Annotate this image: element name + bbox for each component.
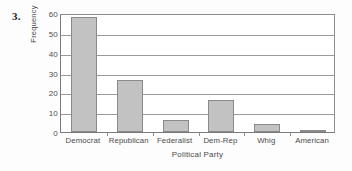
x-tick-label: Democrat — [60, 136, 106, 145]
x-tick-label: Whig — [243, 136, 289, 145]
x-axis-title: Political Party — [60, 150, 335, 159]
bar — [208, 100, 234, 132]
bar-slot — [153, 15, 199, 132]
bar-slot — [290, 15, 336, 132]
bar-slot — [61, 15, 107, 132]
x-tick-label: Federalist — [152, 136, 198, 145]
problem-number: 3. — [12, 10, 21, 22]
bar-slot — [107, 15, 153, 132]
y-tick-label: 30 — [42, 69, 58, 78]
x-tick-label: Dem-Rep — [198, 136, 244, 145]
bar — [163, 120, 189, 132]
y-axis-tick-labels: 0102030405060 — [40, 14, 58, 133]
x-axis-tick-labels: DemocratRepublicanFederalistDem-RepWhigA… — [60, 136, 335, 148]
bar — [71, 17, 97, 132]
x-tick-label: Republican — [106, 136, 152, 145]
y-tick-label: 40 — [42, 49, 58, 58]
y-tick-label: 50 — [42, 29, 58, 38]
y-tick-label: 20 — [42, 89, 58, 98]
bar — [300, 130, 326, 132]
bar-chart-screenshot: 3. Frequency 0102030405060 DemocratRepub… — [0, 0, 352, 171]
bar-slot — [199, 15, 245, 132]
plot-area — [60, 14, 335, 133]
bar — [117, 80, 143, 132]
y-tick-label: 10 — [42, 109, 58, 118]
x-tick-label: American — [289, 136, 335, 145]
bar-series — [61, 15, 334, 132]
y-axis-title: Frequency — [27, 0, 41, 54]
y-tick-label: 60 — [42, 10, 58, 19]
y-tick-label: 0 — [42, 129, 58, 138]
bar — [254, 124, 280, 132]
bar-slot — [244, 15, 290, 132]
